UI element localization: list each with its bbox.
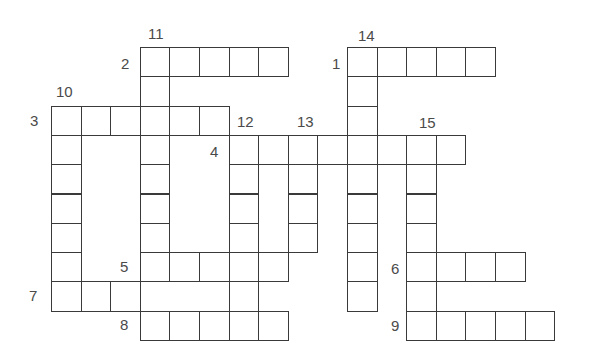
- grid-cell[interactable]: [406, 135, 437, 165]
- grid-cell[interactable]: [347, 76, 378, 106]
- grid-cell[interactable]: [51, 223, 82, 253]
- grid-cell[interactable]: [229, 164, 260, 194]
- clue-number-2-across: 2: [121, 56, 129, 71]
- grid-cell[interactable]: [229, 135, 260, 165]
- grid-cell[interactable]: [140, 106, 171, 136]
- clue-number-12-down: 12: [237, 114, 254, 129]
- clue-number-15-down: 15: [419, 115, 436, 130]
- grid-cell[interactable]: [140, 311, 171, 341]
- grid-cell[interactable]: [140, 47, 171, 77]
- grid-cell[interactable]: [347, 164, 378, 194]
- grid-cell[interactable]: [140, 252, 171, 282]
- grid-cell[interactable]: [229, 281, 260, 311]
- grid-cell[interactable]: [51, 194, 82, 224]
- grid-cell[interactable]: [140, 164, 171, 194]
- grid-cell[interactable]: [110, 281, 141, 311]
- clue-number-1-across: 1: [332, 56, 340, 71]
- grid-cell[interactable]: [465, 47, 496, 77]
- grid-cell[interactable]: [377, 47, 408, 77]
- grid-cell[interactable]: [229, 47, 260, 77]
- grid-cell[interactable]: [525, 311, 556, 341]
- grid-cell[interactable]: [51, 281, 82, 311]
- grid-cell[interactable]: [465, 252, 496, 282]
- grid-cell[interactable]: [288, 135, 319, 165]
- grid-cell[interactable]: [169, 47, 200, 77]
- grid-cell[interactable]: [81, 106, 112, 136]
- grid-cell[interactable]: [436, 47, 467, 77]
- grid-cell[interactable]: [288, 223, 319, 253]
- clue-number-3-across: 3: [30, 113, 38, 128]
- grid-cell[interactable]: [140, 76, 171, 106]
- grid-cell[interactable]: [406, 47, 437, 77]
- clue-number-4-across: 4: [210, 144, 218, 159]
- grid-cell[interactable]: [347, 194, 378, 224]
- grid-cell[interactable]: [436, 135, 467, 165]
- grid-cell[interactable]: [406, 223, 437, 253]
- clue-number-13-down: 13: [297, 114, 314, 129]
- grid-cell[interactable]: [258, 311, 289, 341]
- grid-cell[interactable]: [406, 252, 437, 282]
- grid-cell[interactable]: [465, 311, 496, 341]
- grid-cell[interactable]: [110, 106, 141, 136]
- grid-cell[interactable]: [436, 311, 467, 341]
- grid-cell[interactable]: [229, 194, 260, 224]
- grid-cell[interactable]: [347, 281, 378, 311]
- grid-cell[interactable]: [51, 252, 82, 282]
- grid-cell[interactable]: [199, 311, 230, 341]
- grid-cell[interactable]: [229, 223, 260, 253]
- grid-cell[interactable]: [406, 311, 437, 341]
- grid-cell[interactable]: [140, 135, 171, 165]
- grid-cell[interactable]: [377, 135, 408, 165]
- grid-cell[interactable]: [288, 164, 319, 194]
- grid-cell[interactable]: [81, 281, 112, 311]
- grid-cell[interactable]: [169, 252, 200, 282]
- grid-cell[interactable]: [347, 106, 378, 136]
- grid-cell[interactable]: [347, 223, 378, 253]
- grid-cell[interactable]: [51, 164, 82, 194]
- grid-cell[interactable]: [229, 311, 260, 341]
- grid-cell[interactable]: [258, 135, 289, 165]
- grid-cell[interactable]: [406, 194, 437, 224]
- clue-number-7-across: 7: [29, 288, 37, 303]
- grid-cell[interactable]: [199, 47, 230, 77]
- grid-cell[interactable]: [317, 135, 348, 165]
- grid-cell[interactable]: [495, 311, 526, 341]
- clue-number-6-across: 6: [391, 261, 399, 276]
- grid-cell[interactable]: [51, 135, 82, 165]
- grid-cell[interactable]: [199, 252, 230, 282]
- grid-cell[interactable]: [406, 281, 437, 311]
- grid-cell[interactable]: [495, 252, 526, 282]
- clue-number-14-down: 14: [358, 28, 375, 43]
- grid-cell[interactable]: [140, 194, 171, 224]
- grid-cell[interactable]: [347, 47, 378, 77]
- clue-number-8-across: 8: [120, 317, 128, 332]
- grid-cell[interactable]: [258, 47, 289, 77]
- grid-cell[interactable]: [347, 252, 378, 282]
- grid-cell[interactable]: [258, 252, 289, 282]
- grid-cell[interactable]: [436, 252, 467, 282]
- grid-cell[interactable]: [199, 106, 230, 136]
- clue-number-5-across: 5: [120, 259, 128, 274]
- clue-number-10-down: 10: [56, 84, 73, 99]
- clue-number-9-across: 9: [391, 318, 399, 333]
- crossword-grid: 123456789101112131415: [0, 0, 592, 356]
- clue-number-11-down: 11: [148, 26, 164, 41]
- grid-cell[interactable]: [288, 194, 319, 224]
- grid-cell[interactable]: [169, 311, 200, 341]
- grid-cell[interactable]: [51, 106, 82, 136]
- grid-cell[interactable]: [229, 252, 260, 282]
- grid-cell[interactable]: [169, 106, 200, 136]
- grid-cell[interactable]: [347, 135, 378, 165]
- grid-cell[interactable]: [406, 164, 437, 194]
- grid-cell[interactable]: [140, 223, 171, 253]
